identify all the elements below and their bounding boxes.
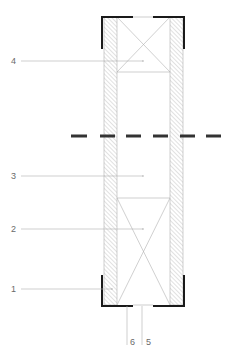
bottom-crossed-box [117, 198, 170, 305]
label-3: 3 [11, 171, 16, 181]
left-wall [104, 17, 117, 305]
right-wall [170, 17, 183, 305]
label-6: 6 [130, 337, 135, 347]
section-diagram [0, 0, 232, 358]
leader-lines [21, 61, 143, 345]
top-crossed-box [117, 17, 170, 72]
label-1: 1 [11, 284, 16, 294]
label-5: 5 [146, 337, 151, 347]
label-4: 4 [11, 56, 16, 66]
label-2: 2 [11, 224, 16, 234]
